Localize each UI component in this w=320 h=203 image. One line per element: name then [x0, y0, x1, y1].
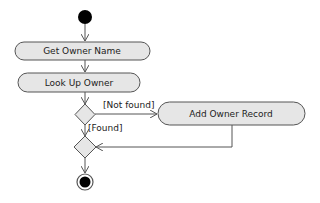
decision-node — [75, 104, 95, 125]
guard-found: [Found] — [88, 123, 123, 133]
action-label: Get Owner Name — [43, 46, 121, 56]
action-add-owner-record: Add Owner Record — [158, 102, 305, 125]
guard-not-found: [Not found] — [103, 100, 154, 110]
action-look-up-owner: Look Up Owner — [18, 73, 140, 92]
action-label: Look Up Owner — [45, 78, 114, 88]
action-label: Add Owner Record — [189, 109, 273, 119]
final-node — [77, 174, 93, 190]
activity-diagram: Get Owner Name Look Up Owner [Not found]… — [0, 0, 320, 203]
action-get-owner-name: Get Owner Name — [15, 42, 150, 60]
initial-node — [78, 10, 92, 24]
merge-node — [74, 136, 96, 158]
